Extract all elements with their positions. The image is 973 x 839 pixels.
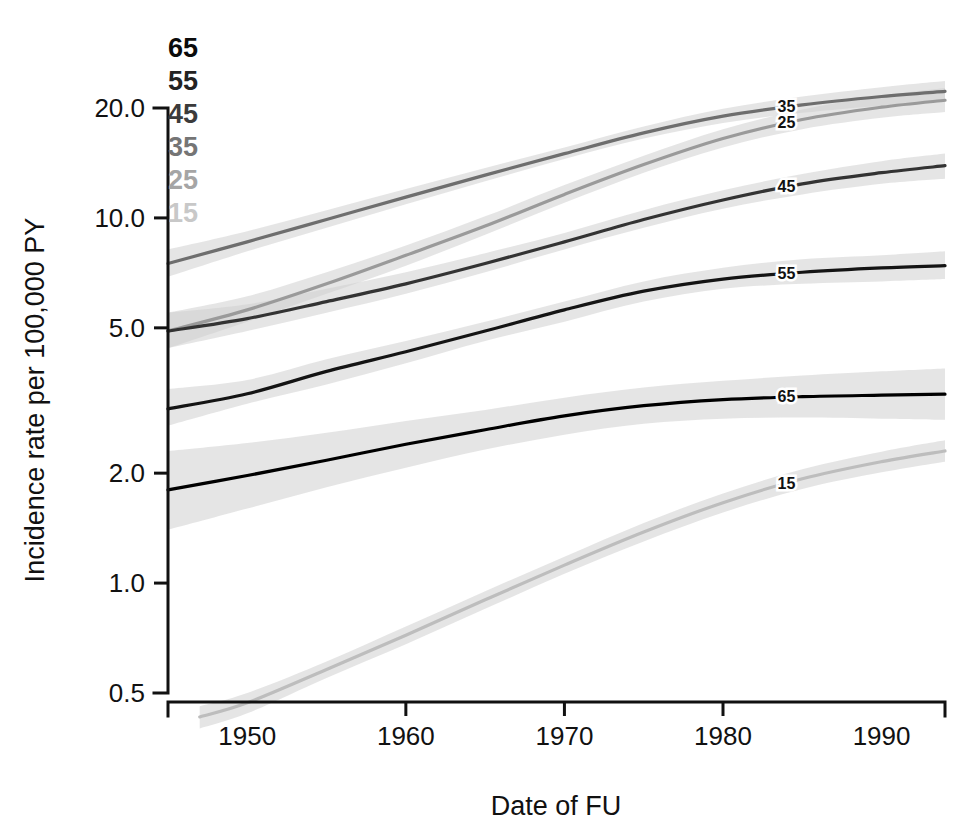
x-axis-title: Date of FU (491, 791, 622, 821)
y-tick-label: 1.0 (109, 568, 145, 598)
legend-item-65: 65 (168, 33, 198, 63)
y-tick-label: 0.5 (109, 678, 145, 708)
y-tick-label: 2.0 (109, 458, 145, 488)
legend-item-45: 45 (168, 99, 198, 129)
inline-label-45: 45 (778, 178, 796, 195)
legend-item-55: 55 (168, 66, 198, 96)
legend-item-25: 25 (168, 165, 198, 195)
inline-label-65: 65 (778, 388, 796, 405)
inline-label-25: 25 (778, 114, 796, 131)
y-axis-title: Incidence rate per 100,000 PY (20, 218, 50, 583)
x-tick-label: 1990 (853, 721, 911, 751)
incidence-rate-line-chart: 353525254545555565651515 0.51.02.05.010.… (0, 0, 973, 839)
inline-label-55: 55 (778, 265, 796, 282)
x-tick-label: 1970 (536, 721, 594, 751)
legend-item-35: 35 (168, 132, 198, 162)
y-tick-label: 20.0 (94, 93, 145, 123)
legend-item-15: 15 (168, 198, 198, 228)
y-tick-label: 10.0 (94, 203, 145, 233)
x-tick-label: 1980 (694, 721, 752, 751)
x-tick-label: 1950 (218, 721, 276, 751)
chart-figure: 353525254545555565651515 0.51.02.05.010.… (0, 0, 973, 839)
x-tick-label: 1960 (377, 721, 435, 751)
inline-label-35: 35 (778, 98, 796, 115)
inline-label-15: 15 (778, 475, 796, 492)
y-tick-label: 5.0 (109, 313, 145, 343)
